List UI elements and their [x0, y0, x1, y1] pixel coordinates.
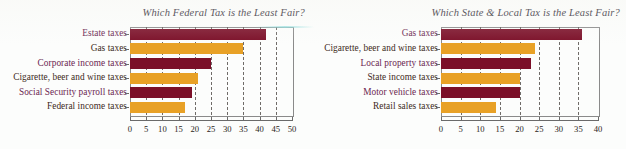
bar — [130, 58, 211, 69]
bar — [130, 73, 198, 84]
bar — [130, 87, 192, 98]
gridline — [500, 27, 501, 115]
x-axis-tick-label: 20 — [515, 124, 524, 134]
x-axis-tick — [539, 117, 540, 121]
category-label: Corporate income taxes — [38, 59, 127, 69]
category-tick — [125, 34, 129, 35]
x-axis-tick — [276, 117, 277, 121]
x-axis-tick — [260, 117, 261, 121]
category-tick — [125, 78, 129, 79]
x-axis-tick — [211, 117, 212, 121]
x-axis-tick-label: 0 — [128, 124, 132, 134]
category-label: Social Security payroll taxes — [19, 88, 127, 98]
x-axis-tick — [130, 117, 131, 121]
x-axis-tick — [227, 117, 228, 121]
x-axis-tick-label: 15 — [174, 124, 183, 134]
x-axis-tick — [520, 117, 521, 121]
x-axis-tick-label: 0 — [439, 124, 443, 134]
gridline — [195, 27, 196, 115]
category-label: Gas taxes — [91, 44, 127, 54]
bar — [441, 58, 531, 69]
category-tick — [436, 49, 440, 50]
bar — [441, 43, 535, 54]
x-axis-tick-label: 5 — [458, 124, 462, 134]
category-tick — [436, 34, 440, 35]
x-axis-tick-label: 50 — [288, 124, 297, 134]
x-axis-tick-label: 40 — [255, 124, 264, 134]
gridline — [539, 27, 540, 115]
x-axis-tick-label: 10 — [158, 124, 167, 134]
x-axis-tick-label: 20 — [191, 124, 200, 134]
x-axis-tick-label: 45 — [272, 124, 281, 134]
bar — [130, 102, 185, 113]
gridline — [276, 27, 277, 115]
bar — [441, 87, 520, 98]
federal-chart-title: Which Federal Tax is the Least Fair? — [143, 7, 306, 18]
x-axis-tick-label: 25 — [207, 124, 216, 134]
x-axis-tick-label: 35 — [574, 124, 583, 134]
category-label: Federal income taxes — [47, 102, 127, 112]
category-tick — [125, 93, 129, 94]
bar — [441, 102, 496, 113]
x-axis-tick-label: 30 — [554, 124, 563, 134]
category-label: Cigarette, beer and wine taxes — [13, 73, 127, 83]
category-label: State income taxes — [367, 73, 438, 83]
state-local-chart-title: Which State & Local Tax is the Least Fai… — [432, 7, 621, 18]
x-axis-tick — [195, 117, 196, 121]
category-tick — [125, 64, 129, 65]
federal-tax-chart-panel: Which Federal Tax is the Least Fair? Est… — [0, 0, 313, 149]
x-axis-tick — [292, 117, 293, 121]
x-axis-tick — [598, 117, 599, 121]
x-axis-tick — [500, 117, 501, 121]
category-tick — [436, 64, 440, 65]
category-label: Motor vehicle taxes — [363, 88, 438, 98]
x-axis-tick — [578, 117, 579, 121]
category-tick — [436, 78, 440, 79]
x-axis-tick — [162, 117, 163, 121]
x-axis-tick-label: 25 — [535, 124, 544, 134]
category-tick — [125, 107, 129, 108]
x-axis-tick — [480, 117, 481, 121]
gridline — [578, 27, 579, 115]
gridline — [559, 27, 560, 115]
category-label: Retail sales taxes — [373, 102, 438, 112]
bar — [130, 29, 266, 40]
x-axis-tick — [146, 117, 147, 121]
category-label: Local property taxes — [361, 59, 438, 69]
gridline — [227, 27, 228, 115]
x-axis-tick — [441, 117, 442, 121]
gridline — [520, 27, 521, 115]
chart-pair-figure: Which Federal Tax is the Least Fair? Est… — [0, 0, 626, 149]
x-axis-tick — [559, 117, 560, 121]
x-axis-tick-label: 35 — [239, 124, 248, 134]
bar — [441, 73, 520, 84]
category-label: Cigarette, beer and wine taxes — [324, 44, 438, 54]
x-axis-tick-label: 15 — [496, 124, 505, 134]
category-tick — [436, 93, 440, 94]
category-label: Estate taxes — [82, 29, 127, 39]
gridline — [211, 27, 212, 115]
gridline — [243, 27, 244, 115]
x-axis-tick-label: 40 — [594, 124, 603, 134]
x-axis-tick-label: 10 — [476, 124, 485, 134]
x-axis-tick — [461, 117, 462, 121]
bar — [130, 43, 243, 54]
x-axis-tick — [179, 117, 180, 121]
x-axis-tick-label: 30 — [223, 124, 232, 134]
x-axis-tick-label: 5 — [144, 124, 148, 134]
category-tick — [125, 49, 129, 50]
bar — [441, 29, 582, 40]
state-local-tax-chart-panel: Which State & Local Tax is the Least Fai… — [313, 0, 626, 149]
x-axis-tick — [243, 117, 244, 121]
category-label: Gas taxes — [402, 29, 438, 39]
gridline — [260, 27, 261, 115]
category-tick — [436, 107, 440, 108]
